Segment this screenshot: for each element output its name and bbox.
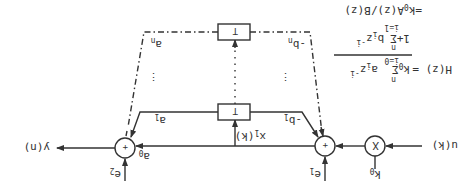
- feedforward-an: [128, 32, 218, 127]
- formula-den-lower: i=1: [384, 23, 399, 32]
- adder-right-symbol: +: [122, 143, 128, 153]
- feedforward-dots: ⋮: [148, 70, 159, 83]
- formula-second-line: =k0A(z)/B(z): [344, 2, 422, 17]
- output-label: y(n): [24, 141, 51, 154]
- bn-label: -bn: [288, 36, 306, 51]
- b1-label: -b1: [284, 112, 302, 127]
- delay-block-n: T: [218, 24, 250, 40]
- adder-left-symbol: +: [322, 141, 328, 151]
- transfer-function: H(z) = k0Σaiz-i n i=0 n 1+Σbiz-i i=1 =k0…: [334, 2, 452, 84]
- iir-filter-block-diagram: u(k) X k0 + e1 a0 x1(k) T T -b1 -bn ⋮ a1: [0, 0, 462, 183]
- formula-numerator: k0Σaiz-i: [350, 61, 410, 78]
- gain-label: k0: [369, 166, 381, 181]
- adder-right: +: [115, 138, 135, 158]
- state-label: x1(k): [235, 128, 266, 143]
- e2-label: e2: [109, 166, 121, 181]
- feedforward-an-end: [126, 131, 127, 136]
- a1-label: a1: [154, 112, 166, 127]
- formula-denominator: 1+Σbiz-i: [356, 30, 410, 47]
- delay-n-label: T: [232, 26, 238, 36]
- multiplier-node: X: [365, 136, 385, 156]
- feedback-dots: ⋮: [280, 70, 291, 83]
- an-label: an: [150, 36, 162, 51]
- multiplier-symbol: X: [372, 139, 379, 152]
- input-label: u(k): [432, 139, 459, 152]
- adder-left: +: [315, 136, 335, 156]
- delay-1-label: T: [232, 106, 238, 116]
- feedback-bn-arrow: [321, 127, 323, 136]
- feedforward-a1: [131, 112, 218, 137]
- delay-block-1: T: [218, 104, 250, 120]
- a0-label: a0: [138, 148, 150, 163]
- formula-num-upper: n: [391, 75, 396, 84]
- formula-num-lower: i=0: [384, 56, 399, 65]
- formula-lhs: H(z) =: [412, 63, 452, 76]
- e1-label: e1: [309, 166, 321, 181]
